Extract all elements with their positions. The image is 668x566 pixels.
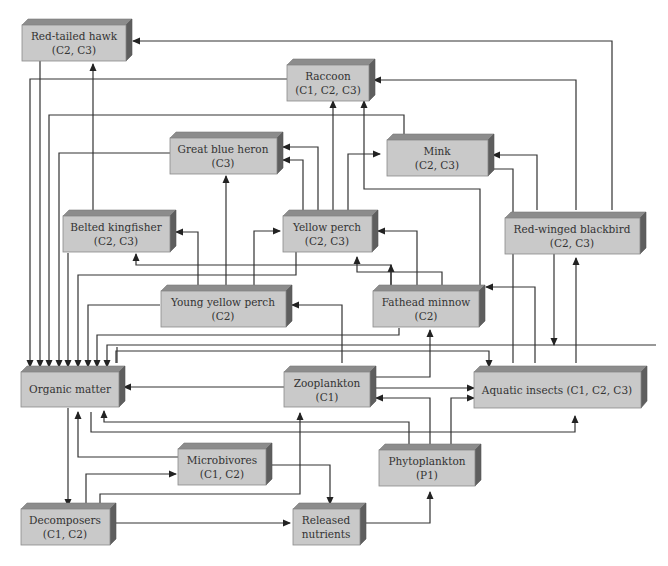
edge-microbivores-organic (78, 412, 178, 457)
node-label: Fathead minnow (382, 296, 471, 308)
node-label: Organic matter (29, 383, 112, 395)
node-label: Young yellow perch (170, 296, 275, 308)
edges (30, 41, 656, 523)
node-label: Raccoon (305, 70, 351, 82)
node-sub: (P1) (416, 469, 438, 481)
node-label: Aquatic insects (C1, C2, C3) (481, 384, 632, 396)
node-sub: (C2, C3) (550, 237, 594, 249)
node-sub: (C1, C2, C3) (295, 84, 361, 96)
node-label: Zooplankton (294, 377, 361, 389)
node-red-tailed-hawk: Red-tailed hawk (C2, C3) (22, 19, 132, 61)
node-label: Red-winged blackbird (514, 223, 631, 235)
edge-phyto-zoo (376, 398, 430, 444)
node-sub: (C2, C3) (305, 235, 349, 247)
edge-fathead-organic (97, 328, 399, 367)
edge-insects-organic-2 (107, 345, 656, 367)
node-red-winged-blackbird: Red-winged blackbird (C2, C3) (505, 212, 646, 254)
edge-organic-insects (116, 351, 489, 367)
node-label: Belted kingfisher (70, 221, 162, 233)
edge-zoo-fathead (372, 330, 430, 377)
node-sub: (C3) (212, 157, 235, 169)
node-label: Phytoplankton (388, 455, 465, 467)
node-label: Mink (423, 145, 451, 157)
edge-fathead-kingfisher (136, 254, 391, 287)
edge-yperch-heron (283, 147, 318, 212)
edge-nutrients-phyto (364, 492, 430, 523)
node-sub: nutrients (302, 528, 351, 540)
node-sub: (C1) (316, 391, 339, 403)
food-web-svg: Red-tailed hawk (C2, C3) Raccoon (C1, C2… (0, 0, 668, 566)
node-great-blue-heron: Great blue heron (C3) (170, 132, 283, 174)
edge-fathead-raccoon (364, 101, 480, 287)
node-organic-matter: Organic matter (21, 366, 125, 407)
edge-phyto-organic (104, 411, 409, 444)
node-sub: (C1, C2) (43, 528, 87, 540)
node-label: Decomposers (29, 514, 101, 526)
node-aquatic-insects: Aquatic insects (C1, C2, C3) (474, 366, 647, 408)
node-label: Yellow perch (292, 221, 361, 233)
edge-insects-fathead (486, 287, 535, 363)
edge-phyto-insects (451, 398, 474, 444)
node-zooplankton: Zooplankton (C1) (284, 366, 376, 407)
node-label: Microbivores (187, 454, 257, 466)
node-sub: (C2) (415, 310, 438, 322)
edge-blackbird-mink (493, 155, 537, 210)
node-phytoplankton: Phytoplankton (P1) (379, 444, 481, 486)
edge-zoo-yyperch (292, 305, 342, 363)
edge-fathead-heron (283, 160, 303, 212)
node-label: Red-tailed hawk (31, 30, 118, 42)
edge-yyperch-kingfisher (176, 232, 198, 287)
node-mink: Mink (C2, C3) (387, 134, 494, 176)
node-sub: (C1, C2) (200, 468, 244, 480)
edge-insects-upper (484, 169, 513, 363)
food-web-diagram: Red-tailed hawk (C2, C3) Raccoon (C1, C2… (0, 0, 668, 566)
edge-yyperch-yperch (254, 231, 280, 287)
node-microbivores: Microbivores (C1, C2) (178, 443, 272, 485)
node-young-yellow-perch: Young yellow perch (C2) (161, 285, 292, 327)
edge-fathead-yperch (378, 231, 417, 287)
node-sub: (C2, C3) (94, 235, 138, 247)
node-label: Great blue heron (178, 143, 269, 155)
node-belted-kingfisher: Belted kingfisher (C2, C3) (63, 210, 176, 252)
node-raccoon: Raccoon (C1, C2, C3) (287, 59, 375, 101)
node-fathead-minnow: Fathead minnow (C2) (373, 285, 485, 327)
node-sub: (C2) (212, 310, 235, 322)
node-released-nutrients: Released nutrients (293, 503, 366, 545)
node-yellow-perch: Yellow perch (C2, C3) (283, 210, 378, 252)
nodes: Red-tailed hawk (C2, C3) Raccoon (C1, C2… (21, 19, 647, 545)
edge-insects-yperch (357, 257, 442, 287)
node-sub: (C2, C3) (415, 159, 459, 171)
edge-yyperch-organic (88, 305, 160, 367)
node-label: Released (302, 514, 351, 526)
node-sub: (C2, C3) (52, 44, 96, 56)
node-decomposers: Decomposers (C1, C2) (21, 503, 116, 545)
